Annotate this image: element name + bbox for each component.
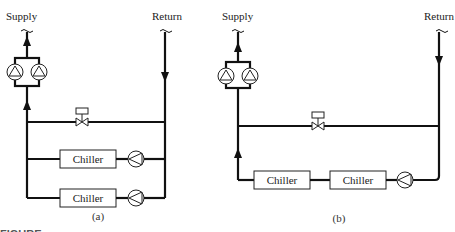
return-label-b: Return (424, 10, 454, 22)
distribution-pump-icon (242, 68, 258, 84)
distribution-pump-icon (31, 64, 47, 80)
supply-label-a: Supply (6, 10, 38, 22)
chiller-pump-icon (128, 190, 144, 206)
chilled-water-diagrams: Supply Return (0, 0, 455, 232)
return-label-a: Return (152, 10, 182, 22)
bypass-control-valve-icon (76, 108, 88, 126)
chiller-label: Chiller (267, 174, 298, 186)
bypass-control-valve-icon (312, 112, 324, 130)
pipe-break-icon (436, 30, 448, 33)
svg-text:FIGURE: FIGURE (0, 228, 42, 232)
chiller-label: Chiller (73, 153, 104, 165)
diagram-a: Supply Return (6, 10, 182, 223)
distribution-pump-icon (218, 68, 234, 84)
distribution-pump-icon (7, 64, 23, 80)
chiller-label: Chiller (343, 174, 374, 186)
chiller-pump-icon (128, 151, 144, 167)
flow-arrow-up-icon (234, 148, 242, 158)
flow-arrow-up-icon (23, 100, 31, 110)
flow-arrow-down-icon (435, 56, 443, 66)
sublabel-b: (b) (333, 212, 346, 225)
flow-arrow-up-icon (234, 42, 242, 52)
figure-caption: FIGURE (0, 228, 42, 232)
sublabel-a: (a) (92, 210, 105, 223)
flow-arrow-up-icon (23, 36, 31, 46)
diagram-b: Supply Return Chiller (218, 10, 454, 225)
chiller-pump-icon (397, 172, 413, 188)
flow-arrow-down-icon (161, 72, 169, 82)
chiller-label: Chiller (73, 192, 104, 204)
supply-label-b: Supply (222, 10, 254, 22)
